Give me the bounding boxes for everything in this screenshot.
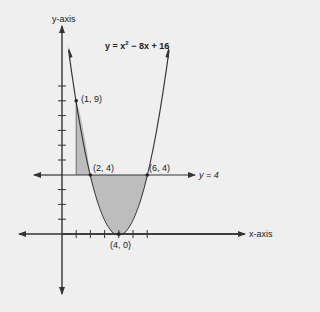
- equation-suffix: − 8x + 16: [129, 41, 170, 51]
- equation-label: y = x2 − 8x + 16: [105, 40, 169, 51]
- y-axis-label: y-axis: [52, 15, 76, 24]
- point-label-1-9: (1, 9): [81, 95, 102, 104]
- x-axis-label: x-axis: [249, 230, 273, 239]
- equation-prefix: y = x: [105, 41, 125, 51]
- horizontal-line-label: y = 4: [199, 171, 219, 180]
- point-label-2-4: (2, 4): [93, 164, 114, 173]
- shaded-region-parabola: [90, 175, 147, 234]
- point-label-6-4: (6, 4): [149, 164, 170, 173]
- point-label-4-0: (4, 0): [110, 241, 131, 250]
